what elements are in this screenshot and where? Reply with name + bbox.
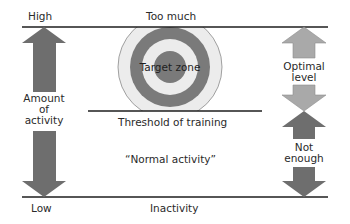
high-label: High	[28, 10, 52, 22]
optimal-down-arrow-icon	[282, 85, 326, 111]
left-up-arrow-icon	[22, 27, 66, 92]
target-zone-label: Target zone	[133, 61, 207, 73]
not-enough-line-2: enough	[276, 153, 332, 164]
low-label: Low	[31, 202, 52, 214]
optimal-level-label: Optimal level	[276, 61, 332, 83]
left-down-arrow-icon	[22, 131, 66, 197]
optimal-level-line-2: level	[276, 72, 332, 83]
not-enough-up-arrow-icon	[282, 111, 326, 139]
not-enough-down-arrow-icon	[282, 167, 326, 197]
normal-activity-label: “Normal activity”	[125, 153, 216, 165]
optimal-up-arrow-icon	[282, 27, 326, 58]
not-enough-label: Not enough	[276, 142, 332, 164]
inactivity-label: Inactivity	[150, 202, 198, 214]
amount-of-activity-line-3: activity	[12, 115, 76, 126]
threshold-of-training-label: Threshold of training	[118, 116, 227, 128]
too-much-label: Too much	[146, 10, 196, 22]
amount-of-activity-label: Amount of activity	[12, 93, 76, 126]
